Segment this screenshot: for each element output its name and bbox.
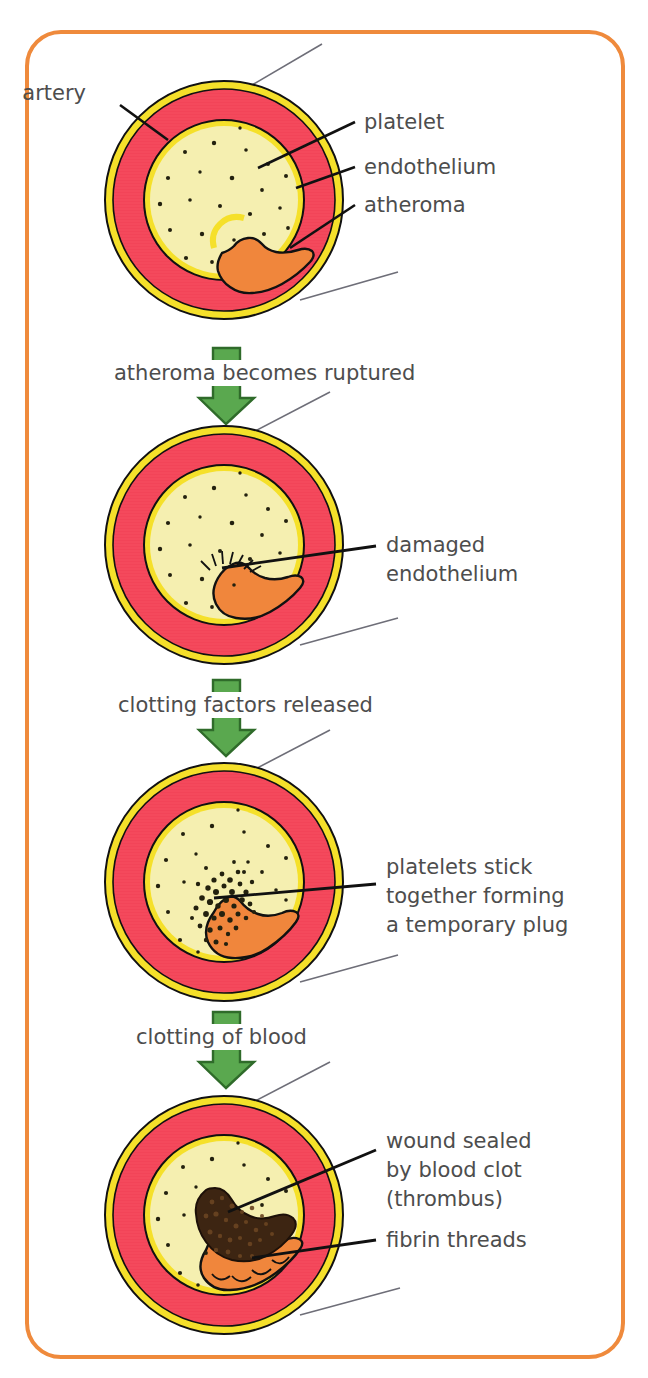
label-atheroma: atheroma <box>364 193 466 217</box>
label-platelet-plug-line-1: platelets stick <box>386 855 533 879</box>
label-damaged-endothelium-line-1: damaged <box>386 533 485 557</box>
figure-canvas: artery platelet endothelium atheroma ath… <box>0 0 648 1378</box>
step-2-arrow-group: clotting factors released <box>104 680 373 756</box>
label-platelet: platelet <box>364 110 444 134</box>
label-wound-sealed-line-2: by blood clot <box>386 1158 522 1182</box>
label-fibrin-threads: fibrin threads <box>386 1228 527 1252</box>
step-1-arrow-group: atheroma becomes ruptured <box>104 348 415 424</box>
label-damaged-endothelium-line-2: endothelium <box>386 562 518 586</box>
artery-thrombus-diagram: artery platelet endothelium atheroma ath… <box>0 0 648 1378</box>
label-wound-sealed-line-3: (thrombus) <box>386 1187 503 1211</box>
label-endothelium: endothelium <box>364 155 496 179</box>
step-1-label: atheroma becomes ruptured <box>114 361 415 385</box>
label-artery: artery <box>22 81 86 105</box>
panel-3-platelet-plug: platelets stick together forming a tempo… <box>105 730 568 1001</box>
step-2-label: clotting factors released <box>118 693 373 717</box>
panel-2-ruptured-atheroma: damaged endothelium <box>105 392 518 664</box>
label-wound-sealed-line-1: wound sealed <box>386 1129 531 1153</box>
step-3-arrow-group: clotting of blood <box>104 1012 314 1088</box>
label-platelet-plug-line-2: together forming <box>386 884 565 908</box>
label-platelet-plug-line-3: a temporary plug <box>386 913 568 937</box>
step-3-label: clotting of blood <box>136 1025 307 1049</box>
panel-4-thrombus: wound sealed by blood clot (thrombus) fi… <box>105 1062 531 1334</box>
panel-1-artery-with-atheroma: artery platelet endothelium atheroma <box>22 44 496 319</box>
